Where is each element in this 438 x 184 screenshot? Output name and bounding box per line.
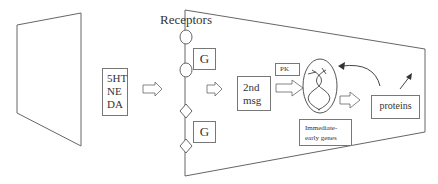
arrow-nt-to-receptor-icon: [143, 82, 162, 96]
arrow-2ndmsg-to-genes-icon: [276, 80, 303, 96]
g-protein-top-box: G: [193, 48, 216, 70]
ieg-line1: Immediate-: [305, 123, 351, 133]
dna-helix-icon: [308, 68, 330, 110]
receptor-circle-2: [180, 63, 192, 77]
receptor-diamond-1: [180, 104, 192, 118]
postsynaptic-neuron-shape: [185, 10, 425, 176]
g-protein-bottom-box: G: [193, 121, 216, 143]
feedback-arrow-icon: [342, 65, 380, 86]
arrow-genes-to-proteins-icon: [340, 92, 360, 108]
immediate-early-genes-box: Immediate- early genes: [299, 119, 352, 146]
nucleus-ellipse: [303, 59, 337, 113]
arrow-g-to-2ndmsg-icon: [207, 82, 222, 96]
proteins-box: proteins: [371, 95, 420, 119]
neurotransmitter-box: 5HT NE DA: [102, 68, 128, 116]
presynaptic-neuron-shape: [17, 13, 81, 146]
nt-ne: NE: [107, 85, 127, 98]
nt-da: DA: [107, 98, 127, 111]
receptor-circle-1: [180, 30, 192, 44]
second-messenger-box: 2nd msg: [237, 76, 271, 111]
nt-5ht: 5HT: [107, 72, 127, 85]
ieg-line2: early genes: [305, 133, 351, 143]
receptor-diamond-2: [180, 139, 192, 153]
feedback-arrowhead-icon: [338, 62, 345, 70]
receptors-label: Receptors: [160, 12, 212, 28]
diagram-canvas: [0, 0, 438, 184]
protein-kinase-box: PK: [275, 63, 300, 76]
second-messenger-line1: 2nd: [243, 81, 270, 94]
outgoing-arrowhead-icon: [406, 73, 412, 80]
second-messenger-line2: msg: [243, 94, 270, 107]
